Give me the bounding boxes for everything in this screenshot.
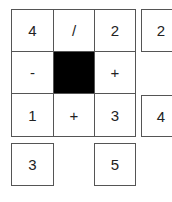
- cell-r0-c0[interactable]: 4: [11, 9, 54, 52]
- cell-r1-c0[interactable]: -: [11, 51, 54, 94]
- result-cell-col2[interactable]: 5: [94, 143, 136, 186]
- result-cell-row2[interactable]: 4: [141, 95, 172, 137]
- blocked-cell: [53, 51, 95, 94]
- result-cell-col0[interactable]: 3: [11, 143, 54, 186]
- cell-r0-c1[interactable]: /: [53, 9, 95, 52]
- cell-r2-c2[interactable]: 3: [94, 93, 136, 137]
- cell-r2-c1[interactable]: +: [53, 93, 95, 137]
- cell-r0-c2[interactable]: 2: [94, 9, 136, 52]
- result-cell-row0[interactable]: 2: [141, 9, 172, 52]
- cell-r2-c0[interactable]: 1: [11, 93, 54, 137]
- cell-r1-c2[interactable]: +: [94, 51, 136, 94]
